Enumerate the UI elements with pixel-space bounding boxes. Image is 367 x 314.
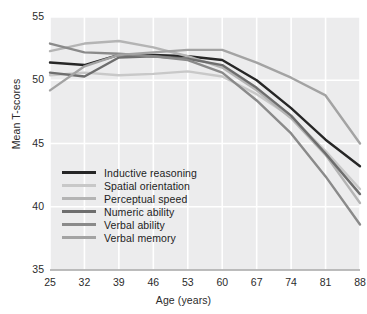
legend-label: Verbal ability (104, 219, 165, 231)
legend: Inductive reasoningSpatial orientationPe… (62, 166, 197, 244)
x-tick-label: 25 (35, 276, 65, 288)
x-tick-label: 74 (276, 276, 306, 288)
y-tick-label: 35 (14, 263, 44, 275)
plot-canvas (0, 0, 367, 314)
y-tick-label: 50 (14, 73, 44, 85)
x-tick-label: 67 (242, 276, 272, 288)
legend-swatch (62, 223, 96, 227)
y-tick-label: 45 (14, 137, 44, 149)
legend-label: Numeric ability (104, 206, 174, 218)
legend-swatch (62, 210, 96, 214)
legend-label: Perceptual speed (104, 193, 187, 205)
legend-item: Perceptual speed (62, 192, 197, 205)
x-tick-label: 39 (104, 276, 134, 288)
x-tick-label: 60 (207, 276, 237, 288)
legend-item: Inductive reasoning (62, 166, 197, 179)
legend-item: Verbal memory (62, 231, 197, 244)
y-axis-label: Mean T-scores (10, 54, 22, 174)
legend-swatch (62, 236, 96, 240)
legend-item: Spatial orientation (62, 179, 197, 192)
legend-swatch (62, 184, 96, 188)
x-tick-label: 46 (138, 276, 168, 288)
x-tick-label: 53 (173, 276, 203, 288)
x-tick-label: 81 (311, 276, 341, 288)
chart-figure: Mean T-scores Age (years) 3540455055 253… (0, 0, 367, 314)
legend-item: Verbal ability (62, 218, 197, 231)
x-tick-label: 32 (69, 276, 99, 288)
legend-swatch (62, 197, 96, 201)
legend-swatch (62, 171, 96, 175)
x-axis-label: Age (years) (0, 294, 367, 306)
y-tick-label: 55 (14, 10, 44, 22)
y-tick-label: 40 (14, 200, 44, 212)
legend-label: Inductive reasoning (104, 167, 197, 179)
legend-item: Numeric ability (62, 205, 197, 218)
legend-label: Verbal memory (104, 232, 176, 244)
legend-label: Spatial orientation (104, 180, 190, 192)
x-tick-label: 88 (345, 276, 367, 288)
